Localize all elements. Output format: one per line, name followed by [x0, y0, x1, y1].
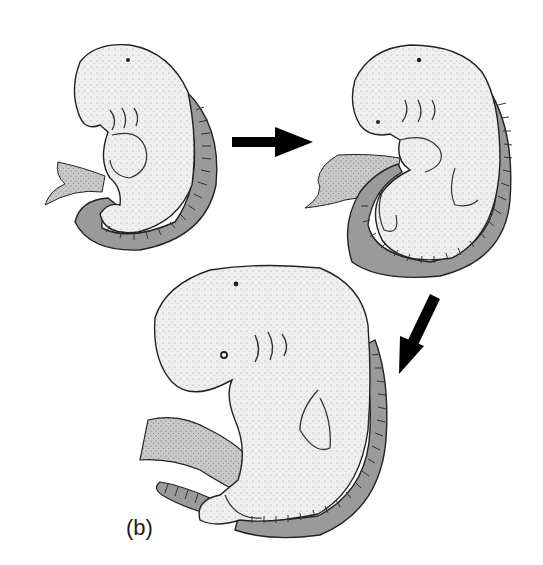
eye-spot: [126, 58, 130, 62]
arrow-down-left-icon: [399, 294, 440, 374]
middle-embryo: [305, 45, 512, 277]
ear-spot: [376, 120, 380, 124]
arrow-right-icon: [232, 127, 313, 157]
early-embryo: [45, 45, 217, 251]
eye-spot: [234, 282, 239, 287]
panel-label: (b): [126, 515, 153, 541]
embryo-development-diagram: [0, 0, 543, 565]
eye-spot: [417, 58, 421, 62]
late-embryo: [140, 265, 387, 537]
ear-spot: [221, 352, 227, 358]
